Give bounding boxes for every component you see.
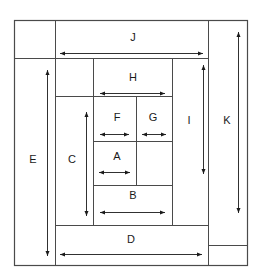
dimension-label-D: D	[127, 233, 135, 245]
dimension-label-A: A	[113, 150, 121, 162]
dimension-label-H: H	[129, 71, 137, 83]
dimension-label-B: B	[129, 189, 136, 201]
dimension-arrow-layer	[48, 32, 239, 256]
dimension-label-J: J	[130, 31, 136, 43]
dimension-label-F: F	[114, 111, 121, 123]
region-outer	[15, 21, 248, 266]
rectangle-layer	[15, 21, 248, 266]
region-A-cell	[94, 142, 137, 186]
dimension-label-K: K	[223, 114, 231, 126]
dimension-label-E: E	[29, 153, 36, 165]
region-inner-fill	[137, 142, 173, 186]
diagram-canvas: ABCDEFGHIJK	[0, 0, 261, 280]
dimension-label-I: I	[187, 114, 190, 126]
dimension-diagram: ABCDEFGHIJK	[0, 0, 261, 280]
region-D-band	[56, 226, 209, 266]
region-K-band	[209, 21, 248, 246]
dimension-label-C: C	[68, 153, 76, 165]
dimension-label-G: G	[149, 111, 158, 123]
